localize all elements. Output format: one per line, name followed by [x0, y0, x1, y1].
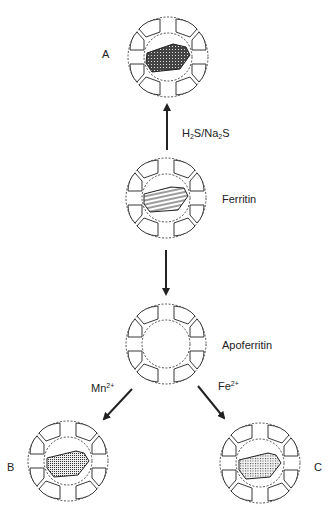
particle-b [28, 421, 108, 501]
mn-base: Mn [91, 382, 106, 394]
particle-c [220, 423, 300, 503]
mn-sup: 2+ [106, 382, 114, 389]
fe-sup: 2+ [231, 380, 239, 387]
label-fe2: Fe2+ [218, 380, 239, 392]
h2s-pre: H [182, 127, 190, 139]
h2s-mid: S/Na [194, 127, 218, 139]
h2s-post: S [222, 127, 229, 139]
ferritin-reaction-diagram [0, 0, 334, 511]
particle-ferritin [126, 158, 206, 238]
label-a: A [102, 49, 109, 60]
label-ferritin: Ferritin [222, 194, 256, 205]
label-apoferritin: Apoferritin [222, 340, 272, 351]
particle-a [128, 17, 208, 97]
label-h2s-na2s: H2S/Na2S [182, 128, 230, 140]
particle-apoferritin [126, 304, 206, 384]
fe-base: Fe [218, 380, 231, 392]
label-c: C [314, 462, 322, 473]
label-mn2: Mn2+ [91, 382, 114, 394]
label-b: B [7, 462, 14, 473]
